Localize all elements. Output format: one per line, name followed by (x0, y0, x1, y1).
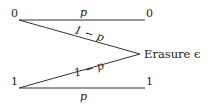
erasure-channel-diagram: 0 1 0 1 Erasure ϵ p 1 − p 1 − p p (0, 0, 210, 107)
output-0-label: 0 (146, 7, 153, 20)
output-erasure-label: Erasure ϵ (144, 47, 200, 61)
edge-label-0-0: p (80, 6, 87, 19)
edge-label-1-erasure: 1 − p (73, 59, 106, 80)
output-1-label: 1 (146, 75, 153, 88)
input-1-label: 1 (11, 75, 18, 88)
edge-label-0-erasure: 1 − p (73, 23, 106, 44)
input-0-label: 0 (11, 7, 18, 20)
edge-label-1-1: p (80, 90, 87, 103)
